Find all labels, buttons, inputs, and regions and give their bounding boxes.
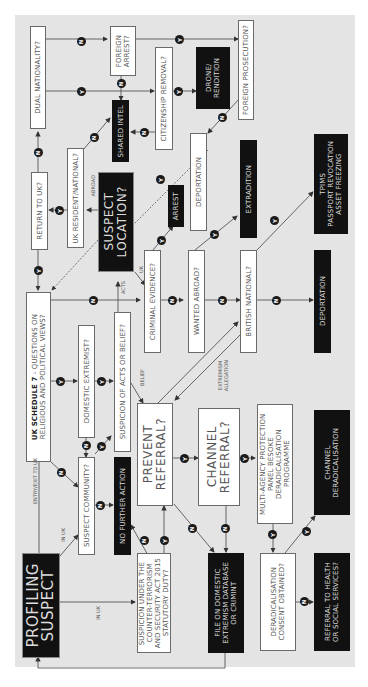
node-foreign-prosecution: FOREIGN PROSECUTION? [238,20,254,120]
badge-yes: Y [77,87,86,96]
node-drone-rendition: DRONE/ RENDITION [196,47,230,109]
badge-yes: Y [240,454,249,463]
node-arrest: ARREST [168,185,184,227]
badge-yes: Y [156,175,165,184]
node-deportation-top: DEPORTATION [190,133,207,231]
node-citizenship-removal: CITIZENSHIP REMOVAL? [155,47,173,150]
badge-no: N [34,148,43,157]
node-multi-agency-panel: MULTI-AGENCY PROTECTION PANEL BESOKE DER… [257,404,293,524]
badge-yes: Y [180,454,189,463]
badge-yes: Y [157,236,166,245]
label-acts: ACTS [120,281,126,294]
badge-no: N [89,296,98,305]
badge-no: N [117,79,126,88]
label-extremism-allegation: EXTREMISM ALLEGATION [217,360,229,391]
badge-yes: Y [56,377,65,386]
label-entry-exit: ENTRY/EXIT TO UK [32,458,38,504]
node-uk-resident: UK RESIDENT/NATIONAL? [67,148,84,248]
node-channel-deradicalisation: CHANNEL DERADICALISATION [314,410,350,515]
badge-yes: Y [97,377,106,386]
badge-yes: Y [174,87,183,96]
badge-no: N [272,296,281,305]
node-tpims: TPIMS PASSPORT REVOCATION ASSET FREEZING [314,134,348,234]
node-file-database: FILE ON DOMESTIC EXTREMISM DATABASE OR C… [208,553,244,653]
node-deportation-bottom: DEPORTATION [314,250,331,353]
badge-no: N [140,128,149,137]
node-suspicion-ct-act: SUSPICION UNDER THE COUNTER-TERRORISM AN… [137,553,171,653]
node-extradition: EXTRADITION [240,140,257,238]
badge-yes: Y [270,216,279,225]
node-no-further-action: NO FURTHER ACTION [114,457,131,555]
node-shared-intel: SHARED INTEL [112,100,129,162]
badge-no: N [96,501,105,510]
badge-no: N [168,296,177,305]
node-deradicalisation-consent: DERADICALISATION CONSENT OBTAINED? [260,553,296,651]
badge-no: N [221,524,230,533]
node-suspect-location: SUSPECT LOCATION? [98,172,134,272]
label-uk: UK [138,266,144,273]
node-criminal-evidence: CRIMINAL EVIDENCE? [144,250,161,353]
node-domestic-extremist: DOMESTIC EXTREMIST? [78,325,95,438]
label-in-uk-1: IN UK [60,528,66,542]
label-abroad: ABROAD [90,175,96,196]
node-suspicion-acts-belief: SUSPICION OF ACTS OR BELIEF? [114,312,131,452]
badge-no: N [300,597,309,606]
node-foreign-arrest: FOREIGN ARREST? [110,26,136,76]
node-return-to-uk: RETURN TO UK? [31,172,48,250]
badge-no: N [57,468,66,477]
node-dual-nationality: DUAL NATIONALITY? [30,26,46,129]
badge-yes: Y [302,527,311,536]
node-referral-health: REFERRAL TO HEALTH OR SOCIAL SERVICES? [314,553,350,651]
badge-no: N [90,133,99,142]
node-uk-schedule-7: UK SCHEDULE 7 - QUESTIONS ON RELIGIOUS A… [26,292,51,462]
badge-yes: Y [268,530,277,539]
label-in-uk-2: IN UK [95,606,101,620]
diagram-background [15,15,355,667]
badge-no: N [77,37,86,46]
badge-yes: Y [160,536,169,545]
node-british-national: BRITISH NATIONAL? [240,250,257,353]
badge-no: N [188,524,197,533]
node-channel-referral: CHANNEL REFERRAL? [198,408,240,506]
badge-yes: Y [97,442,106,451]
node-profiling-suspect: PROFILING SUSPECT [22,553,60,658]
badge-yes: Y [210,230,219,239]
node-wanted-abroad: WANTED ABROAD? [188,250,205,353]
badge-yes: Y [55,206,64,215]
schedule-7-title: UK SCHEDULE 7 [31,376,39,440]
badge-no: N [140,536,149,545]
label-belief: BELIEF [139,369,145,386]
badge-no: N [82,441,91,450]
badge-yes: Y [34,266,43,275]
badge-no: N [218,113,227,122]
badge-yes: Y [175,35,184,44]
node-prevent-referral: PREVENT REFERRAL? [137,403,173,506]
node-suspect-community: SUSPECT COMMUNITY? [78,457,95,555]
badge-no: N [218,296,227,305]
